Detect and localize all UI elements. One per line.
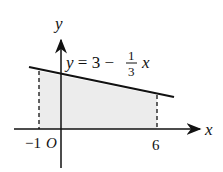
- frac-denominator: 3: [128, 64, 135, 79]
- equation-label: y = 3 − 1 3 x: [64, 48, 150, 79]
- area-under-line-diagram: y x O −1 6 y = 3 − 1 3 x: [0, 0, 223, 172]
- frac-numerator: 1: [128, 48, 135, 63]
- svg-text:y = 3 −: y = 3 −: [64, 53, 114, 72]
- tick-label-6: 6: [152, 137, 160, 153]
- origin-label: O: [46, 135, 57, 151]
- tick-label-minus-1: −1: [25, 135, 41, 151]
- y-axis-label: y: [53, 14, 63, 33]
- shaded-area: [39, 71, 157, 129]
- x-axis-label: x: [204, 120, 213, 139]
- equation-var: x: [141, 53, 150, 72]
